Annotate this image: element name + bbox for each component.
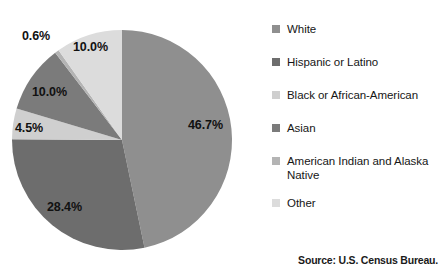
- chart-legend: White Hispanic or Latino Black or Africa…: [272, 22, 446, 229]
- legend-item-black-or-african-american[interactable]: Black or African-American: [272, 88, 446, 102]
- legend-label-white: White: [287, 22, 316, 36]
- legend-item-american-indian-and-alaska-native[interactable]: American Indian and Alaska Native: [272, 154, 446, 182]
- slice-label-hispanic-or-latino: 28.4%: [47, 201, 82, 214]
- slice-label-white: 46.7%: [188, 119, 223, 132]
- legend-swatch-icon: [272, 25, 280, 33]
- pie-slices: [12, 30, 232, 250]
- legend-label-hispanic-or-latino: Hispanic or Latino: [287, 55, 378, 69]
- pie-chart-figure: 46.7% 28.4% 4.5% 10.0% 0.6% 10.0% White …: [0, 0, 446, 273]
- legend-item-white[interactable]: White: [272, 22, 446, 36]
- legend-swatch-icon: [272, 199, 280, 207]
- pie-slice-hispanic-or-latino: [12, 139, 145, 250]
- legend-label-american-indian-and-alaska-native: American Indian and Alaska Native: [287, 154, 446, 182]
- slice-label-asian: 10.0%: [32, 86, 67, 99]
- slice-label-american-indian-and-alaska-native: 0.6%: [22, 30, 50, 43]
- legend-swatch-icon: [272, 124, 280, 132]
- slice-label-other: 10.0%: [73, 41, 108, 54]
- legend-swatch-icon: [272, 58, 280, 66]
- legend-swatch-icon: [272, 157, 280, 165]
- source-note: Source: U.S. Census Bureau.: [298, 254, 438, 266]
- legend-label-other: Other: [287, 196, 316, 210]
- legend-item-hispanic-or-latino[interactable]: Hispanic or Latino: [272, 55, 446, 69]
- legend-label-asian: Asian: [287, 121, 316, 135]
- legend-item-other[interactable]: Other: [272, 196, 446, 210]
- pie-chart-graphic: 46.7% 28.4% 4.5% 10.0% 0.6% 10.0%: [0, 0, 260, 273]
- legend-item-asian[interactable]: Asian: [272, 121, 446, 135]
- legend-swatch-icon: [272, 91, 280, 99]
- legend-label-black-or-african-american: Black or African-American: [287, 88, 418, 102]
- pie-slice-white: [122, 30, 232, 248]
- slice-label-black-or-african-american: 4.5%: [15, 122, 43, 135]
